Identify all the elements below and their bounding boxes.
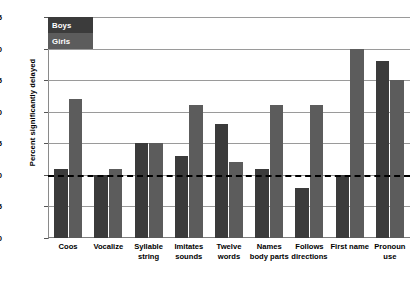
- bar-group: [330, 17, 370, 238]
- legend-item-boys: Boys: [48, 17, 93, 33]
- y-tick-label-5: 5: [0, 202, 2, 211]
- legend-label-boys: Boys: [52, 21, 71, 30]
- bar-boys: [135, 143, 149, 238]
- y-tick-label-15: 15: [0, 139, 2, 148]
- bar-boys: [295, 188, 309, 239]
- bar-boys: [336, 175, 350, 238]
- bar-boys: [54, 169, 68, 238]
- bar-girls: [270, 105, 284, 238]
- bar-group: [48, 17, 88, 238]
- bar-girls: [310, 105, 324, 238]
- y-tick-label-10: 10: [0, 170, 2, 179]
- bar-boys: [215, 124, 229, 238]
- y-axis-title: Percent significantly delayed: [28, 28, 37, 198]
- x-tick-label: Twelve words: [209, 242, 249, 261]
- x-tick-label: Imitates sounds: [169, 242, 209, 261]
- plot-area: [48, 17, 410, 238]
- bar-group: [128, 17, 168, 238]
- bar-group: [88, 17, 128, 238]
- bar-boys: [175, 156, 189, 238]
- x-axis-category-labels: CoosVocalizeSyllable stringImitates soun…: [48, 242, 410, 282]
- x-tick-label: First name: [330, 242, 370, 252]
- y-tick-label-35: 35: [0, 13, 2, 22]
- bar-boys: [94, 175, 108, 238]
- chart-legend: Boys Girls: [48, 17, 93, 49]
- bar-girls: [149, 143, 163, 238]
- bar-girls: [229, 162, 243, 238]
- y-tick-label-30: 30: [0, 44, 2, 53]
- x-tick-label: Names body parts: [249, 242, 289, 261]
- reference-line-10-percent: [48, 175, 410, 177]
- x-tick-label: Pronoun use: [370, 242, 410, 261]
- legend-label-girls: Girls: [52, 37, 70, 46]
- bar-group: [289, 17, 329, 238]
- bar-girls: [109, 169, 123, 238]
- bar-girls: [350, 49, 364, 238]
- x-tick-label: Follows directions: [289, 242, 329, 261]
- y-tick-label-0: 0: [0, 234, 2, 243]
- bar-girls: [390, 80, 404, 238]
- bars-layer: [48, 17, 410, 238]
- bar-girls: [189, 105, 203, 238]
- legend-item-girls: Girls: [48, 33, 93, 49]
- bar-girls: [69, 99, 83, 238]
- bar-boys: [255, 169, 269, 238]
- bar-chart: Percent significantly delayed 0510152025…: [0, 0, 420, 282]
- bar-group: [370, 17, 410, 238]
- y-tick-mark-0: [44, 238, 48, 239]
- x-tick-label: Syllable string: [128, 242, 168, 261]
- bar-group: [209, 17, 249, 238]
- x-tick-label: Coos: [48, 242, 88, 252]
- y-tick-label-25: 25: [0, 76, 2, 85]
- bar-group: [249, 17, 289, 238]
- x-tick-label: Vocalize: [88, 242, 128, 252]
- bar-boys: [376, 61, 390, 238]
- y-tick-label-20: 20: [0, 107, 2, 116]
- bar-group: [169, 17, 209, 238]
